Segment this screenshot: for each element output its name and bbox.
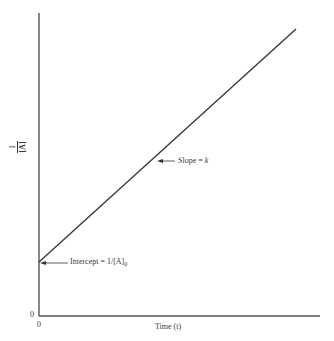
y-origin-label: 0 [30, 310, 34, 319]
intercept-annotation-text: Intercept = 1/[A] [70, 257, 124, 266]
chart-canvas [0, 0, 334, 341]
slope-annotation: Slope = k [178, 156, 208, 165]
x-axis-label: Time (t) [155, 322, 181, 331]
slope-annotation-text: Slope = [178, 156, 205, 165]
slope-annotation-symbol: k [205, 156, 209, 165]
intercept-annotation-subscript: 0 [124, 261, 127, 267]
data-line [39, 29, 296, 262]
slope-arrowhead-icon [157, 159, 163, 163]
intercept-arrowhead-icon [40, 261, 46, 265]
x-origin-label: 0 [37, 320, 41, 329]
intercept-annotation: Intercept = 1/[A]0 [70, 257, 127, 267]
y-axis-label-numerator: 1 [8, 141, 18, 153]
y-axis-label: 1 [A] [8, 132, 38, 162]
y-axis-label-denominator: [A] [18, 132, 27, 162]
